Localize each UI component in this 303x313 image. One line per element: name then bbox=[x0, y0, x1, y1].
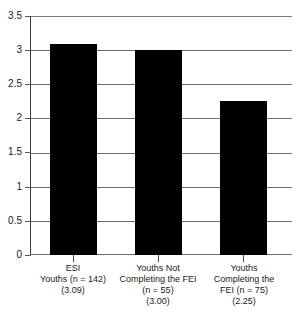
y-tick-label-0-5: 0.5 bbox=[8, 216, 22, 226]
gridline-3-5 bbox=[30, 16, 292, 17]
x-tick-mark-esi-youths bbox=[73, 255, 74, 262]
x-label-youths-not-completing-fei-line-4: (3.00) bbox=[105, 296, 211, 307]
x-label-youths-completing-fei-line-4: (2.25) bbox=[198, 296, 290, 307]
y-tick-label-1-5: 1.5 bbox=[8, 147, 22, 157]
x-label-youths-not-completing-fei-line-2: Completing the FEI bbox=[105, 274, 211, 285]
x-tick-mark-youths-not-completing-fei bbox=[158, 255, 159, 262]
x-label-youths-completing-fei: Youths Completing the FEI (n = 75) (2.25… bbox=[198, 263, 290, 307]
bar-youths-not-completing-fei[interactable] bbox=[135, 50, 182, 255]
plot-area bbox=[30, 16, 292, 255]
x-label-youths-not-completing-fei: Youths Not Completing the FEI (n = 55) (… bbox=[105, 263, 211, 307]
bar-chart-figure: 3.5 3 2.5 2 1.5 1 0.5 0 ESI bbox=[0, 0, 303, 313]
bar-youths-completing-fei[interactable] bbox=[220, 101, 267, 255]
x-axis-category-labels: ESI Youths (n = 142) (3.09) Youths Not C… bbox=[0, 263, 303, 313]
y-tick-label-1: 1 bbox=[16, 182, 22, 192]
x-label-youths-not-completing-fei-line-1: Youths Not bbox=[105, 263, 211, 274]
y-axis-line bbox=[30, 16, 31, 255]
bar-esi-youths[interactable] bbox=[50, 44, 97, 255]
y-tick-label-2: 2 bbox=[16, 113, 22, 123]
x-label-youths-not-completing-fei-line-3: (n = 55) bbox=[105, 285, 211, 296]
y-tick-label-3: 3 bbox=[16, 45, 22, 55]
x-tick-mark-youths-completing-fei bbox=[243, 255, 244, 262]
y-tick-label-3-5: 3.5 bbox=[8, 11, 22, 21]
y-tick-label-2-5: 2.5 bbox=[8, 79, 22, 89]
y-tick-label-0: 0 bbox=[16, 250, 22, 260]
x-label-youths-completing-fei-line-2: Completing the bbox=[198, 274, 290, 285]
x-label-youths-completing-fei-line-1: Youths bbox=[198, 263, 290, 274]
y-tick-mark-0 bbox=[25, 255, 31, 256]
x-label-youths-completing-fei-line-3: FEI (n = 75) bbox=[198, 285, 290, 296]
